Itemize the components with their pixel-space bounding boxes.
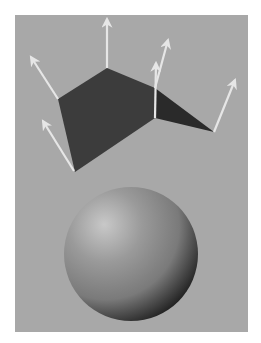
normal-arrow-icon	[155, 63, 156, 118]
shaded-sphere	[64, 187, 198, 321]
figure-canvas	[0, 0, 261, 343]
